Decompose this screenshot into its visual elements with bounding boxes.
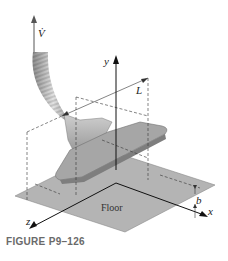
y-axis-label: y (104, 56, 109, 67)
flow-rate-label: V̇ (38, 28, 45, 39)
length-label: L (136, 85, 142, 96)
figure-drawing (0, 0, 228, 261)
floor-label: Floor (101, 203, 123, 213)
z-axis-label: z (26, 216, 30, 227)
vacuum-nozzle-figure: V̇ y L b x z Floor FIGURE P9–126 (0, 0, 228, 261)
x-axis-label: x (208, 206, 213, 217)
figure-caption: FIGURE P9–126 (6, 236, 85, 247)
gap-label: b (196, 195, 202, 206)
